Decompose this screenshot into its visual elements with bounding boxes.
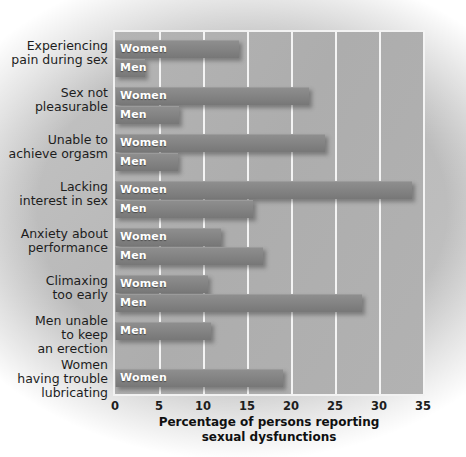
bar-series-label: Women — [120, 42, 167, 55]
bar: Women — [115, 181, 412, 199]
category-label: Experiencing pain during sex — [0, 39, 108, 67]
chart-figure: Experiencing pain during sex Sex not ple… — [0, 0, 466, 457]
category-label-line: interest in sex — [0, 194, 108, 208]
gridline — [379, 32, 381, 394]
bar: Men — [115, 322, 211, 340]
x-tick-label: 35 — [415, 399, 431, 413]
category-label-line: Unable to — [0, 133, 108, 147]
x-tick-label: 0 — [111, 399, 119, 413]
category-label-line: Lacking — [0, 180, 108, 194]
plot-area: WomenMenWomenMenWomenMenWomenMenWomenMen… — [113, 30, 425, 396]
category-label-line: having trouble — [0, 372, 108, 386]
category-label: Lacking interest in sex — [0, 180, 108, 208]
bar-series-label: Men — [120, 202, 147, 215]
bar: Men — [115, 106, 179, 124]
bar-series-label: Men — [120, 155, 147, 168]
bar: Women — [115, 228, 221, 246]
category-label-line: achieve orgasm — [0, 147, 108, 161]
bar: Women — [115, 87, 309, 105]
bar: Men — [115, 59, 145, 77]
bar-series-label: Women — [120, 230, 167, 243]
bar-series-label: Men — [120, 61, 147, 74]
x-axis-title-line1: Percentage of persons reporting — [113, 415, 425, 430]
category-label-line: Climaxing — [0, 274, 108, 288]
category-label-line: Experiencing — [0, 39, 108, 53]
x-tick-label: 25 — [327, 399, 343, 413]
category-label-line: lubricating — [0, 386, 108, 400]
x-tick-label: 5 — [155, 399, 163, 413]
category-label: Anxiety about performance — [0, 227, 108, 255]
bar-series-label: Men — [120, 296, 147, 309]
category-label-line: performance — [0, 241, 108, 255]
category-label-line: Anxiety about — [0, 227, 108, 241]
bar: Women — [115, 40, 239, 58]
category-label-line: Men unable — [0, 314, 108, 328]
category-label: Men unable to keep an erection — [0, 314, 108, 356]
bar: Women — [115, 369, 283, 387]
x-tick-label: 20 — [283, 399, 299, 413]
bar-series-label: Women — [120, 371, 167, 384]
category-label: Women having trouble lubricating — [0, 358, 108, 400]
bar: Men — [115, 247, 263, 265]
x-tick-label: 30 — [371, 399, 387, 413]
category-label-line: Sex not — [0, 86, 108, 100]
bar: Women — [115, 134, 325, 152]
gridline — [423, 32, 425, 394]
bar: Men — [115, 153, 178, 171]
bar-series-label: Women — [120, 89, 167, 102]
bar-series-label: Women — [120, 136, 167, 149]
category-label-line: an erection — [0, 342, 108, 356]
category-label-line: Women — [0, 358, 108, 372]
x-tick-label: 10 — [195, 399, 211, 413]
bar: Women — [115, 275, 208, 293]
bar: Men — [115, 294, 362, 312]
x-axis-title-line2: sexual dysfunctions — [113, 430, 425, 445]
category-label-line: pleasurable — [0, 100, 108, 114]
category-label-line: to keep — [0, 328, 108, 342]
bar-series-label: Men — [120, 108, 147, 121]
x-tick-label: 15 — [239, 399, 255, 413]
bar-series-label: Men — [120, 249, 147, 262]
category-label-column: Experiencing pain during sex Sex not ple… — [0, 0, 108, 457]
bar-series-label: Women — [120, 183, 167, 196]
category-label: Climaxing too early — [0, 274, 108, 302]
category-label: Sex not pleasurable — [0, 86, 108, 114]
category-label-line: pain during sex — [0, 53, 108, 67]
x-axis-title: Percentage of persons reporting sexual d… — [113, 415, 425, 445]
category-label: Unable to achieve orgasm — [0, 133, 108, 161]
category-label-line: too early — [0, 288, 108, 302]
bar-series-label: Women — [120, 277, 167, 290]
bar: Men — [115, 200, 253, 218]
gridline — [335, 32, 337, 394]
bar-series-label: Men — [120, 324, 147, 337]
